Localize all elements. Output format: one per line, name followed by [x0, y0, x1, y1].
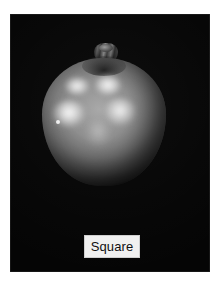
apple	[42, 58, 166, 186]
caption-label: Square	[84, 235, 140, 258]
caption-label-text: Square	[91, 240, 134, 253]
apple-stem-well	[82, 56, 126, 76]
apple-body	[42, 58, 166, 186]
apple-photograph: Square	[10, 14, 210, 272]
page-canvas: Square	[0, 0, 222, 292]
stem-knot	[99, 44, 113, 52]
